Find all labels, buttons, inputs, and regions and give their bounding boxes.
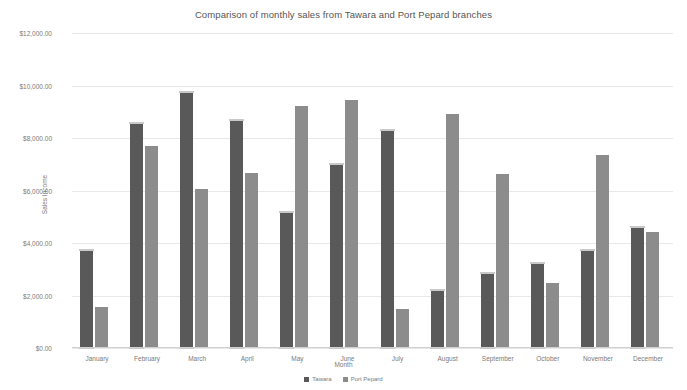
- bar: [280, 212, 293, 348]
- legend-entry[interactable]: Port Pepard: [343, 376, 383, 382]
- bar: [596, 155, 609, 348]
- bar-group: [222, 33, 272, 348]
- bar-group: [373, 33, 423, 348]
- bar: [195, 189, 208, 348]
- bar: [95, 307, 108, 348]
- legend-swatch: [343, 377, 348, 382]
- bar: [396, 309, 409, 348]
- bar-cap: [129, 122, 144, 124]
- bar: [496, 174, 509, 348]
- bar: [381, 130, 394, 348]
- bar-group: [172, 33, 222, 348]
- bar: [180, 92, 193, 348]
- legend-label: Port Pepard: [351, 376, 383, 382]
- bar-cap: [329, 163, 344, 165]
- bar-group: [623, 33, 673, 348]
- x-axis-line: [72, 347, 673, 348]
- legend-label: Tawara: [312, 376, 331, 382]
- chart-legend: TawaraPort Pepard: [0, 376, 687, 382]
- y-axis-tick-label: $12,000.00: [0, 30, 52, 37]
- bar-group: [573, 33, 623, 348]
- bar-chart: Comparison of monthly sales from Tawara …: [0, 0, 687, 390]
- bar: [646, 232, 659, 348]
- bar: [245, 173, 258, 348]
- bar-group: [473, 33, 523, 348]
- bar: [446, 114, 459, 348]
- bar: [295, 106, 308, 348]
- bar-cap: [580, 249, 595, 251]
- bar-group: [322, 33, 372, 348]
- y-axis-title: Sales Income: [41, 175, 48, 214]
- bar-group: [122, 33, 172, 348]
- bar: [145, 146, 158, 348]
- chart-title: Comparison of monthly sales from Tawara …: [0, 9, 687, 20]
- bar-group: [72, 33, 122, 348]
- y-axis-tick-label: $0.00: [0, 345, 52, 352]
- bar: [631, 227, 644, 348]
- bar-cap: [179, 91, 194, 93]
- bar: [130, 123, 143, 348]
- bar-cap: [279, 211, 294, 213]
- bar-cap: [79, 249, 94, 251]
- bar: [80, 250, 93, 348]
- bar-group: [523, 33, 573, 348]
- bar-cap: [430, 289, 445, 291]
- y-axis-tick-label: $10,000.00: [0, 82, 52, 89]
- bar: [330, 164, 343, 348]
- bar: [230, 120, 243, 348]
- bar: [345, 100, 358, 348]
- bar: [431, 290, 444, 348]
- bar: [481, 273, 494, 348]
- bar: [531, 263, 544, 348]
- y-axis-tick-label: $6,000.00: [0, 187, 52, 194]
- plot-area: Sales Income $0.00$2,000.00$4,000.00$6,0…: [72, 33, 673, 348]
- bar-cap: [630, 226, 645, 228]
- y-axis-tick-label: $4,000.00: [0, 240, 52, 247]
- bar-cap: [380, 129, 395, 131]
- legend-swatch: [304, 377, 309, 382]
- bar: [546, 283, 559, 348]
- bar-cap: [480, 272, 495, 274]
- x-axis-title: Month: [0, 361, 687, 368]
- bar-group: [272, 33, 322, 348]
- bar: [581, 250, 594, 348]
- y-axis-tick-label: $8,000.00: [0, 135, 52, 142]
- legend-entry[interactable]: Tawara: [304, 376, 331, 382]
- bar-cap: [229, 119, 244, 121]
- bar-group: [423, 33, 473, 348]
- bar-cap: [530, 262, 545, 264]
- y-axis-tick-label: $2,000.00: [0, 292, 52, 299]
